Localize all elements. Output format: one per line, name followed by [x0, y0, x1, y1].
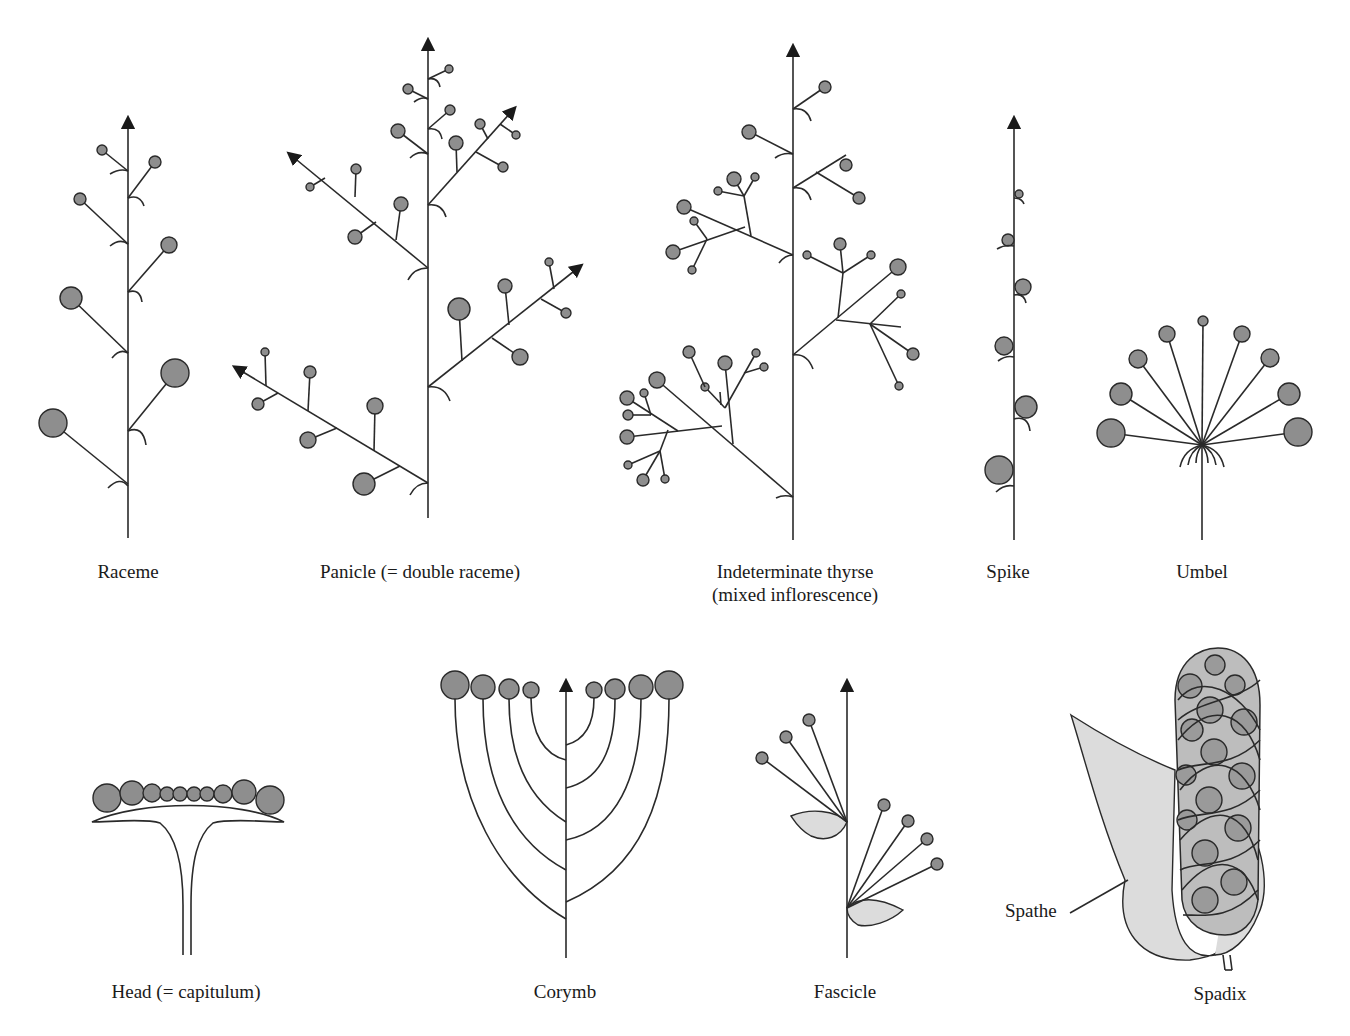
- panicle-drawing: [238, 44, 578, 518]
- label-head: Head (= capitulum): [86, 980, 286, 1004]
- label-spadix: Spadix: [1170, 982, 1270, 1006]
- label-raceme: Raceme: [78, 560, 178, 584]
- label-fascicle: Fascicle: [790, 980, 900, 1004]
- raceme-drawing: [39, 122, 189, 538]
- spike-drawing: [985, 122, 1037, 540]
- head-drawing: [92, 780, 284, 955]
- thyrse-drawing: [620, 50, 919, 540]
- label-umbel: Umbel: [1160, 560, 1244, 584]
- label-panicle: Panicle (= double raceme): [290, 560, 550, 584]
- inflorescence-diagram: [0, 0, 1350, 1036]
- fascicle-drawing: [756, 685, 943, 958]
- corymb-drawing: [441, 671, 683, 958]
- spathe-pointer-line: [1070, 880, 1128, 913]
- label-thyrse-line1: Indeterminate thyrse: [680, 560, 910, 584]
- label-thyrse-line2: (mixed inflorescence): [680, 583, 910, 607]
- label-spike: Spike: [968, 560, 1048, 584]
- umbel-drawing: [1097, 316, 1312, 540]
- spadix-drawing: [1070, 648, 1264, 970]
- label-spathe: Spathe: [1005, 899, 1075, 923]
- label-corymb: Corymb: [510, 980, 620, 1004]
